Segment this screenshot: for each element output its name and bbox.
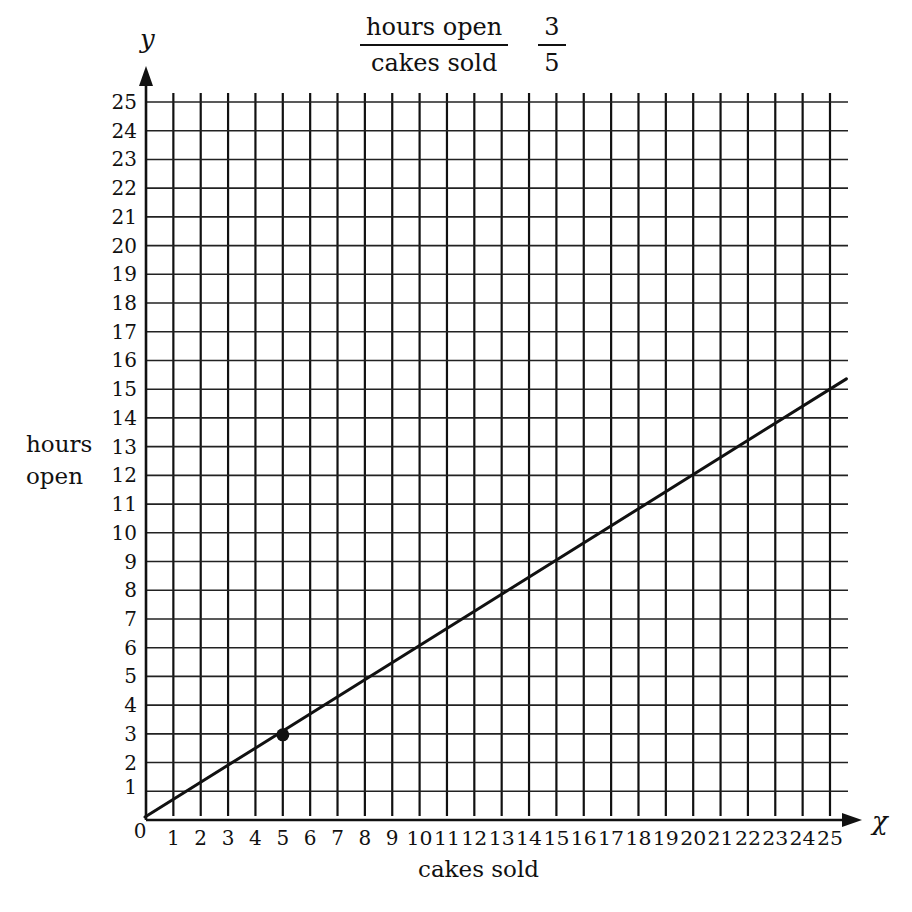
data-point [276, 728, 289, 741]
y-tick-label: 13 [112, 435, 137, 459]
x-tick-label: 4 [249, 826, 262, 850]
x-tick-label: 13 [489, 827, 515, 849]
y-tick-label: 9 [124, 550, 137, 574]
y-tick-label: 14 [112, 406, 137, 430]
x-tick-label: 19 [653, 827, 679, 849]
y-tick-label: 2 [124, 751, 137, 775]
y-tick-label: 12 [112, 463, 137, 487]
title-numerator: hours open [360, 12, 508, 46]
y-axis-label-line2: open [26, 460, 92, 492]
y-tick-label: 15 [112, 377, 137, 401]
x-axis-label: cakes sold [418, 856, 539, 882]
x-tick-labels: 0123456789101112131415161718192021222324… [134, 819, 843, 850]
y-tick-label: 24 [112, 119, 137, 143]
y-tick-label: 7 [124, 607, 137, 631]
y-tick-label: 10 [112, 521, 137, 545]
data-line [145, 379, 846, 817]
y-tick-label: 6 [124, 636, 137, 660]
x-tick-label: 5 [276, 826, 289, 850]
x-tick-label: 22 [735, 827, 761, 849]
x-tick-label: 1 [167, 826, 180, 850]
x-axis-variable: χ [872, 806, 888, 836]
x-tick-label: 24 [790, 827, 816, 849]
y-tick-label: 19 [112, 262, 137, 286]
x-tick-label: 9 [386, 826, 399, 850]
x-tick-label: 15 [543, 827, 569, 849]
coordinate-grid-chart: 0123456789101112131415161718192021222324… [0, 0, 912, 912]
x-tick-label: 12 [461, 827, 487, 849]
y-tick-label: 3 [124, 722, 137, 746]
y-tick-label: 1 [124, 775, 137, 799]
x-axis-arrow-icon [842, 813, 862, 827]
x-tick-label: 3 [222, 826, 235, 850]
y-tick-label: 20 [112, 234, 137, 258]
x-tick-label: 10 [407, 827, 433, 849]
y-tick-label: 18 [112, 291, 137, 315]
x-tick-label: 16 [571, 827, 597, 849]
title-denominator: cakes sold [360, 46, 508, 78]
y-tick-label: 4 [124, 693, 137, 717]
x-tick-label: 25 [817, 827, 843, 849]
ratio-fraction: 3 5 [538, 12, 566, 78]
y-axis-variable: y [140, 24, 155, 54]
proportional-line [145, 379, 846, 817]
ratio-denominator: 5 [538, 46, 566, 78]
x-tick-label: 11 [434, 827, 460, 849]
y-tick-label: 16 [112, 348, 137, 372]
ratio-numerator: 3 [538, 12, 566, 46]
y-axis-label-line1: hours [26, 428, 92, 460]
y-tick-label: 25 [112, 90, 137, 114]
x-tick-label: 0 [134, 819, 147, 843]
y-tick-label: 21 [112, 205, 137, 229]
y-tick-label: 17 [112, 320, 137, 344]
x-tick-label: 21 [708, 827, 734, 849]
chart-title-fraction: hours open cakes sold [360, 12, 508, 78]
x-tick-label: 20 [680, 827, 706, 849]
y-tick-label: 11 [112, 492, 137, 516]
y-tick-labels: 1234567891011121314151617181920212223242… [112, 90, 137, 799]
x-tick-label: 8 [359, 826, 372, 850]
y-tick-label: 8 [124, 578, 137, 602]
x-tick-label: 7 [331, 826, 344, 850]
x-tick-label: 23 [762, 827, 788, 849]
y-tick-label: 23 [112, 147, 137, 171]
y-axis-arrow-icon [139, 66, 153, 86]
x-tick-label: 17 [598, 827, 624, 849]
y-axis-label: hours open [26, 428, 92, 492]
x-tick-label: 2 [194, 826, 207, 850]
vertical-gridlines [173, 93, 830, 816]
x-tick-label: 18 [625, 827, 651, 849]
x-tick-label: 14 [516, 827, 542, 849]
y-tick-label: 22 [112, 176, 137, 200]
x-tick-label: 6 [304, 826, 317, 850]
data-points [276, 728, 289, 741]
horizontal-gridlines [146, 102, 848, 791]
y-tick-label: 5 [124, 664, 137, 688]
